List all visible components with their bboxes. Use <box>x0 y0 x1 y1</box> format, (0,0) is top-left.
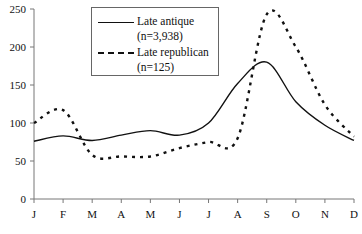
x-tick-label: J <box>177 208 182 220</box>
legend-n-late-republican: (n=125) <box>137 60 174 74</box>
x-tick-label: M <box>145 208 155 220</box>
x-tick-label: J <box>206 208 211 220</box>
x-tick-label: N <box>321 208 329 220</box>
legend-dotted-swatch <box>98 52 134 54</box>
y-tick-label: 0 <box>21 193 27 205</box>
legend-label-late-republican: Late republican <box>137 45 209 59</box>
x-tick-label: A <box>234 208 242 220</box>
clipped-caption <box>60 226 280 232</box>
legend-solid-swatch <box>98 22 134 23</box>
y-tick-label: 250 <box>10 3 27 15</box>
y-axis-labels: 050100150200250 <box>10 3 27 205</box>
x-tick-label: O <box>292 208 300 220</box>
legend: Late antique (n=3,938) Late republican (… <box>91 7 219 76</box>
x-tick-label: D <box>350 208 358 220</box>
x-tick-label: J <box>32 208 37 220</box>
x-tick-label: F <box>60 208 66 220</box>
y-tick-label: 100 <box>10 117 27 129</box>
x-axis-labels: JFMAMJJASOND <box>32 208 358 220</box>
y-tick-label: 150 <box>10 79 27 91</box>
x-tick-label: A <box>117 208 125 220</box>
y-tick-label: 50 <box>15 155 27 167</box>
legend-n-late-antique: (n=3,938) <box>137 29 183 43</box>
legend-label-late-antique: Late antique <box>137 14 194 28</box>
x-tick-label: M <box>87 208 97 220</box>
x-tick-label: S <box>264 208 270 220</box>
y-tick-label: 200 <box>10 41 27 53</box>
